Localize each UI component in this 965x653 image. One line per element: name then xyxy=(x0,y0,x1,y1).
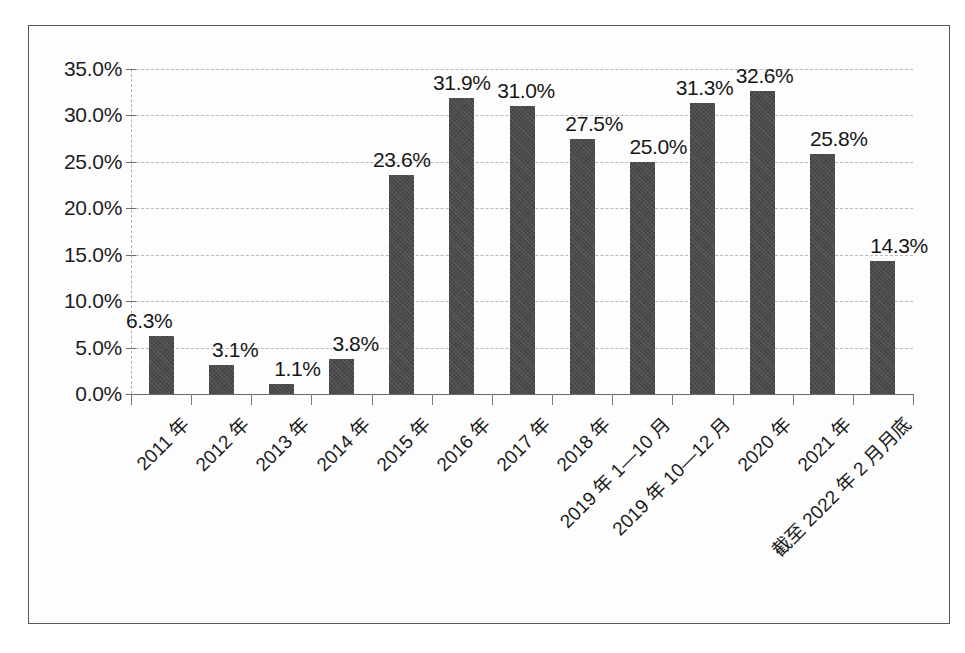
x-axis-tick-label: 2015 年 xyxy=(369,410,435,476)
x-axis-tick xyxy=(311,394,312,405)
x-axis-tick xyxy=(733,394,734,405)
plot-area: 0.0%5.0%10.0%15.0%20.0%25.0%30.0%35.0% 6… xyxy=(131,69,913,394)
bar-data-label: 1.1% xyxy=(274,357,320,381)
bar-data-label: 6.3% xyxy=(126,309,172,333)
y-axis-tick-label: 20.0% xyxy=(64,196,122,220)
y-axis-tick xyxy=(126,208,136,209)
bar-data-label: 3.1% xyxy=(212,338,258,362)
x-axis-tick-label: 2014 年 xyxy=(308,410,374,476)
bar-data-label: 27.5% xyxy=(565,112,623,136)
y-axis-tick-label: 25.0% xyxy=(64,150,122,174)
bar xyxy=(449,98,474,394)
bar xyxy=(149,336,174,395)
bar xyxy=(810,154,835,394)
bar xyxy=(870,261,895,394)
x-axis-tick-label: 2013 年 xyxy=(248,410,314,476)
x-axis-tick-label: 2016 年 xyxy=(429,410,495,476)
y-axis-tick-label: 10.0% xyxy=(64,289,122,313)
bar-data-label: 23.6% xyxy=(373,148,431,172)
x-axis-tick xyxy=(131,394,132,405)
bar-data-label: 25.0% xyxy=(630,135,688,159)
bar-data-label: 3.8% xyxy=(332,332,378,356)
x-axis-tick-label: 2011 年 xyxy=(129,410,194,475)
y-axis-tick-label: 5.0% xyxy=(75,336,122,360)
x-axis-tick xyxy=(251,394,252,405)
x-axis-tick xyxy=(552,394,553,405)
y-axis-tick-label: 35.0% xyxy=(64,57,122,81)
y-axis-tick xyxy=(126,301,136,302)
x-axis-tick-label: 2020 年 xyxy=(730,410,796,476)
y-axis-tick xyxy=(126,255,136,256)
x-axis-tick xyxy=(913,394,914,405)
bar xyxy=(570,139,595,394)
chart-frame: 0.0%5.0%10.0%15.0%20.0%25.0%30.0%35.0% 6… xyxy=(28,25,950,624)
bar-data-label: 32.6% xyxy=(736,64,794,88)
bar-data-label: 25.8% xyxy=(810,127,868,151)
y-axis-tick-label: 15.0% xyxy=(64,243,122,267)
y-axis-tick xyxy=(126,115,136,116)
bar-data-label: 31.3% xyxy=(676,76,734,100)
bar xyxy=(630,162,655,394)
bar-data-label: 14.3% xyxy=(870,234,928,258)
x-axis-tick xyxy=(612,394,613,405)
x-axis-line xyxy=(131,394,913,395)
y-axis-tick-label: 0.0% xyxy=(75,382,122,406)
y-axis-tick xyxy=(126,69,136,70)
gridline xyxy=(131,69,913,70)
y-axis-tick xyxy=(126,348,136,349)
x-axis-tick xyxy=(853,394,854,405)
bar xyxy=(389,175,414,394)
bar xyxy=(269,384,294,394)
x-axis-tick xyxy=(793,394,794,405)
bar xyxy=(209,365,234,394)
x-axis-tick xyxy=(372,394,373,405)
x-axis-tick xyxy=(492,394,493,405)
x-axis-tick xyxy=(191,394,192,405)
x-axis-tick xyxy=(672,394,673,405)
bar xyxy=(750,91,775,394)
y-axis-tick-label: 30.0% xyxy=(64,103,122,127)
y-axis-line xyxy=(131,69,132,394)
bar xyxy=(329,359,354,394)
y-axis-tick xyxy=(126,162,136,163)
bar xyxy=(510,106,535,394)
x-axis-tick-label: 2017 年 xyxy=(489,410,555,476)
x-axis-tick xyxy=(432,394,433,405)
x-axis-tick-label: 2012 年 xyxy=(188,410,254,476)
bar-data-label: 31.0% xyxy=(497,79,555,103)
bar xyxy=(690,103,715,394)
bar-data-label: 31.9% xyxy=(433,71,491,95)
